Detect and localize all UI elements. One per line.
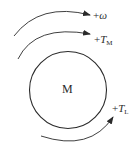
tm-arrow [18, 32, 90, 59]
tl-arrow [41, 117, 113, 141]
diagram-graphics [0, 0, 138, 154]
omega-symbol: ω [99, 9, 107, 21]
tm-subscript: M [106, 39, 112, 47]
machine-label: M [62, 83, 73, 95]
tm-label: +TM [94, 34, 113, 47]
tl-label: +TL [112, 103, 129, 116]
tl-subscript: L [124, 108, 128, 116]
omega-label: +ω [93, 10, 107, 21]
diagram-canvas: M +ω +TM +TL [0, 0, 138, 154]
